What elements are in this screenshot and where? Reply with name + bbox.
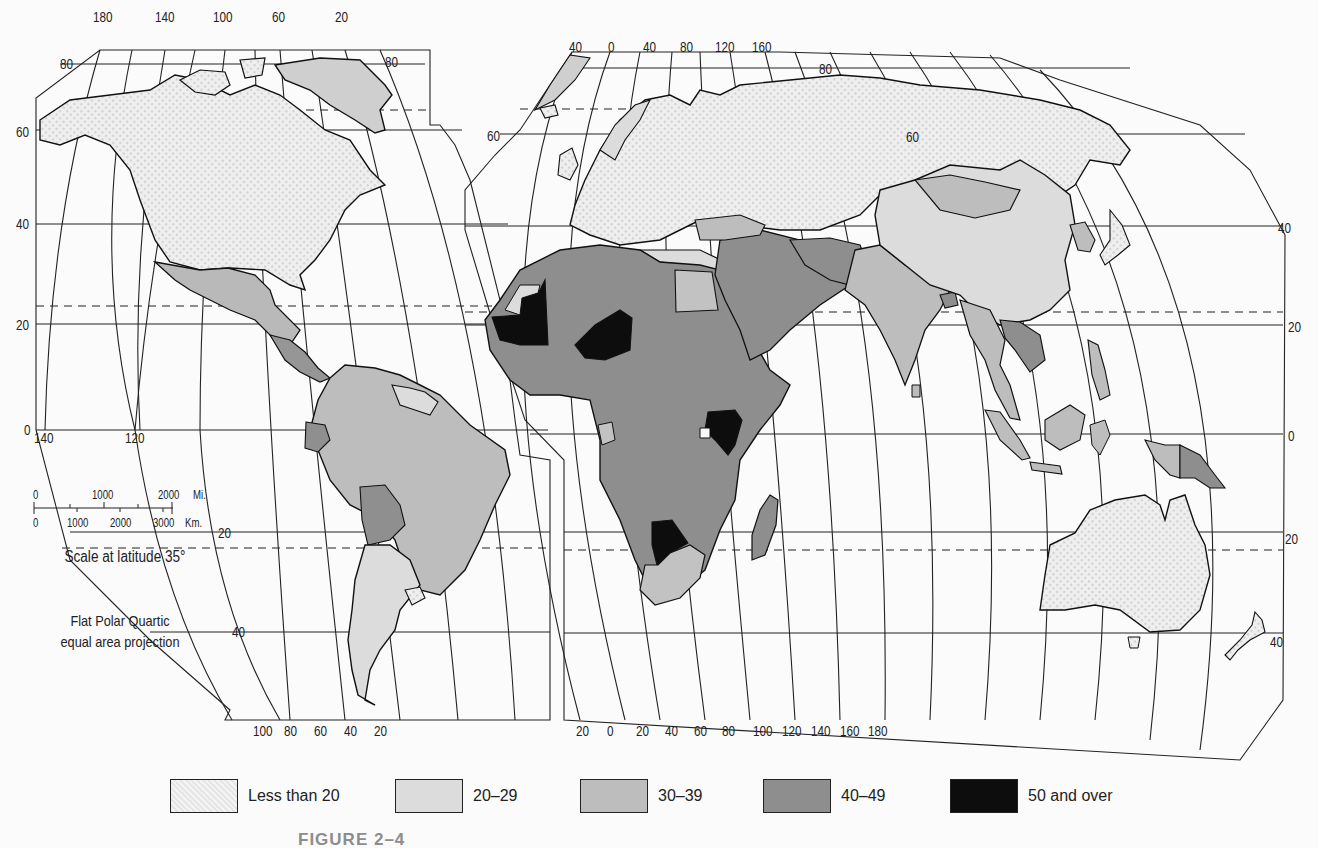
west-lat-label: 60 — [16, 123, 29, 140]
scale-mi-label: 0 — [33, 488, 38, 502]
east-bottom-lon-label: 20 — [636, 722, 649, 739]
legend: Less than 20 20–29 30–39 40–49 50 and ov… — [170, 778, 1170, 818]
east-bottom-lon-label: 160 — [840, 722, 860, 739]
legend-swatch — [950, 779, 1018, 813]
east-top-lon-label: 40 — [643, 38, 656, 55]
east-lat-label-right: 40 — [1278, 219, 1291, 236]
east-bottom-lon-label: 80 — [722, 722, 735, 739]
scale-mi-label: 2000 — [158, 488, 179, 502]
west-bottom-lon-label: 20 — [374, 722, 387, 739]
region-philippines — [1088, 340, 1110, 400]
region-egypt — [675, 270, 718, 312]
west-top-lon-label: 20 — [335, 8, 348, 25]
east-bottom-lon-label: 140 — [811, 722, 831, 739]
region-sri-lanka — [912, 385, 920, 397]
west-lat-label-right: 80 — [385, 53, 398, 70]
west-bottom-lon-label: 40 — [344, 722, 357, 739]
west-top-lon-label: 100 — [213, 8, 233, 25]
legend-item-30-39: 30–39 — [580, 778, 703, 814]
scale-title: Scale at latitude 35° — [61, 548, 189, 566]
region-indochina — [1000, 320, 1045, 372]
east-top-lon-label: 120 — [715, 38, 735, 55]
legend-label: 40–49 — [841, 787, 886, 805]
east-top-lon-label: 80 — [680, 38, 693, 55]
east-lat-label-left: 60 — [487, 127, 500, 144]
east-bottom-lon-label: 40 — [665, 722, 678, 739]
region-borneo — [1045, 405, 1085, 450]
east-bottom-lon-label: 0 — [607, 722, 614, 739]
west-bottom-lon-label: 80 — [284, 722, 297, 739]
region-argentina — [348, 545, 420, 705]
west-top-lon-label: 140 — [155, 8, 175, 25]
region-japan — [1100, 210, 1130, 265]
region-uk — [558, 148, 578, 180]
region-tasmania — [1128, 637, 1140, 648]
scale-km-label: 3000 — [153, 516, 174, 530]
choropleth-world-map — [0, 0, 1318, 848]
east-top-lon-label: 40 — [569, 38, 582, 55]
region-iceland — [540, 105, 558, 118]
legend-label: 50 and over — [1028, 787, 1113, 805]
west-lat-label: 20 — [16, 316, 29, 333]
west-lat-label: 80 — [60, 55, 73, 72]
region-sulawesi — [1090, 420, 1110, 455]
west-equator-lon-label: 120 — [125, 429, 145, 446]
west-top-lon-label: 60 — [272, 8, 285, 25]
region-new-zealand — [1225, 612, 1265, 660]
east-lat-label-right: 20 — [1285, 530, 1298, 547]
projection-note-line2: equal area projection — [52, 633, 188, 650]
east-bottom-lon-label: 120 — [782, 722, 802, 739]
region-greenland-east — [535, 55, 590, 110]
west-bottom-lon-label: 100 — [253, 722, 273, 739]
west-lat-label: 0 — [24, 421, 31, 438]
scale-km-unit: Km. — [185, 516, 202, 530]
scale-mi-unit: Mi. — [193, 488, 206, 502]
legend-swatch — [580, 779, 648, 813]
legend-item-20-29: 20–29 — [395, 778, 518, 814]
legend-item-less-than-20: Less than 20 — [170, 778, 340, 814]
west-bottom-lon-label: 60 — [314, 722, 327, 739]
region-australia — [1040, 495, 1210, 632]
east-lat-label-right: 0 — [1288, 427, 1295, 444]
east-bottom-lon-label: 100 — [753, 722, 773, 739]
west-top-lon-label: 180 — [93, 8, 113, 25]
east-lat-label-right: 80 — [819, 60, 832, 77]
scale-ruler — [33, 502, 178, 514]
scale-km-label: 1000 — [67, 516, 88, 530]
region-lake-victoria — [700, 428, 710, 438]
legend-item-50-and-over: 50 and over — [950, 778, 1113, 814]
scale-mi-label: 1000 — [92, 488, 113, 502]
region-new-guinea-west — [1145, 440, 1180, 478]
figure-caption: FIGURE 2–4 — [298, 830, 405, 848]
region-papua-new-guinea — [1180, 445, 1225, 488]
scale-km-label: 0 — [33, 516, 38, 530]
legend-swatch — [763, 779, 831, 813]
legend-swatch — [395, 779, 463, 813]
scale-km-label: 2000 — [110, 516, 131, 530]
east-lat-label-right: 40 — [1270, 633, 1283, 650]
legend-label: 20–29 — [473, 787, 518, 805]
scale-bar: 0 1000 2000 Mi. 0 1000 2000 3000 Km. — [30, 488, 190, 532]
east-bottom-lon-label: 180 — [868, 722, 888, 739]
west-south-lat-label: 20 — [218, 524, 231, 541]
east-top-lon-label: 0 — [608, 38, 615, 55]
legend-swatch — [170, 779, 238, 813]
west-lat-label: 40 — [16, 215, 29, 232]
projection-note-line1: Flat Polar Quartic — [52, 612, 188, 629]
region-central-america — [270, 335, 330, 382]
legend-label: 30–39 — [658, 787, 703, 805]
legend-label: Less than 20 — [248, 787, 340, 805]
east-lat-label-right: 20 — [1288, 318, 1301, 335]
legend-item-40-49: 40–49 — [763, 778, 886, 814]
east-bottom-lon-label: 20 — [576, 722, 589, 739]
east-top-lon-label: 160 — [752, 38, 772, 55]
east-lat-label-right: 60 — [906, 128, 919, 145]
east-bottom-lon-label: 60 — [694, 722, 707, 739]
west-south-lat-label: 40 — [232, 623, 245, 640]
region-java — [1030, 462, 1062, 474]
west-equator-lon-label: 140 — [34, 429, 54, 446]
region-sumatra — [985, 410, 1030, 460]
